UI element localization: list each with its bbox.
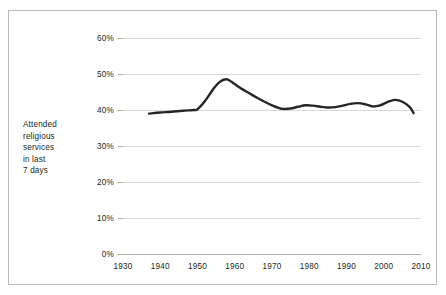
y-tick-label-30: 30%	[97, 142, 114, 151]
x-tick-label-2000: 2000	[374, 262, 393, 271]
chart-figure: Attended religious services in last 7 da…	[8, 10, 437, 285]
x-tick-label-1970: 1970	[262, 262, 281, 271]
y-tick-label-10: 10%	[97, 214, 114, 223]
line-chart-plot: 0%10%20%30%40%50%60% 1930194019501960197…	[9, 11, 438, 286]
x-tick-label-1930: 1930	[113, 262, 132, 271]
data-line-series-0	[149, 79, 413, 113]
y-tick-label-50: 50%	[97, 70, 114, 79]
y-tick-label-0: 0%	[102, 250, 114, 259]
y-tick-labels-group: 0%10%20%30%40%50%60%	[97, 34, 114, 259]
y-tick-label-40: 40%	[97, 106, 114, 115]
x-tick-label-1990: 1990	[337, 262, 356, 271]
x-tick-label-1980: 1980	[300, 262, 319, 271]
x-tick-labels-group: 193019401950196019701980199020002010	[113, 262, 430, 271]
gridlines-group	[118, 38, 421, 254]
y-tick-label-60: 60%	[97, 34, 114, 43]
y-tick-label-20: 20%	[97, 178, 114, 187]
x-tick-label-1950: 1950	[188, 262, 207, 271]
data-series-group	[149, 79, 413, 113]
x-tick-label-2010: 2010	[411, 262, 430, 271]
x-tick-label-1960: 1960	[225, 262, 244, 271]
x-tick-label-1940: 1940	[151, 262, 170, 271]
